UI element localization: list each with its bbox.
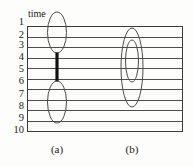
- tick-label-1: 1: [19, 16, 24, 27]
- figure-background: [0, 0, 194, 166]
- time-grid-figure: time 1 2 3 4 5 6 7 8 9 10 (: [0, 0, 194, 166]
- tick-label-4: 4: [19, 51, 25, 62]
- panel-label-b: (b): [126, 143, 139, 156]
- tick-label-3: 3: [19, 39, 24, 50]
- tick-label-7: 7: [19, 88, 24, 99]
- tick-label-5: 5: [19, 63, 24, 74]
- tick-label-6: 6: [19, 75, 24, 86]
- panel-label-a: (a): [51, 143, 64, 156]
- figure-container: time 1 2 3 4 5 6 7 8 9 10 (: [0, 0, 194, 166]
- axis-title-time: time: [28, 8, 46, 19]
- tick-label-10: 10: [14, 124, 25, 135]
- tick-label-8: 8: [19, 100, 24, 111]
- tick-label-9: 9: [19, 112, 24, 123]
